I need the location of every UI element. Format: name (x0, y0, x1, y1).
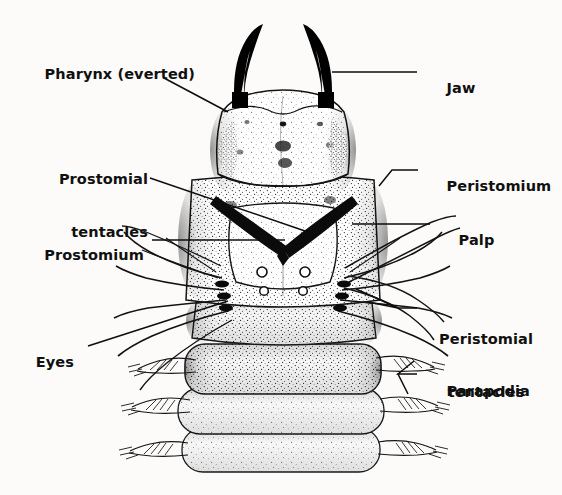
label-parapodia-line1: Parapodia (447, 383, 530, 399)
label-jaw-line1: Jaw (447, 80, 476, 96)
parapodium-right-3 (378, 441, 448, 458)
label-prostomium-line1: Prostomium (44, 247, 144, 263)
figure-canvas: Pharynx (everted) Prostomial tentacles P… (0, 0, 562, 495)
label-jaw: Jaw (426, 62, 475, 115)
label-pharynx-line1: Pharynx (everted) (45, 66, 195, 82)
label-eyes-line1: Eyes (36, 354, 74, 370)
leader-parapodia (398, 361, 417, 394)
label-peristomium: Peristomium (426, 160, 551, 213)
parapodium-left-3 (119, 442, 188, 459)
body-segments (178, 298, 384, 473)
pharynx-everted (210, 90, 356, 192)
segment-2 (184, 344, 382, 394)
label-peristomium-line1: Peristomium (447, 178, 552, 194)
leader-peristomium (379, 170, 418, 186)
label-parapodia: Parapodia (426, 365, 530, 418)
label-eyes: Eyes (10, 336, 74, 389)
segment-3 (178, 388, 384, 434)
label-palp-line1: Palp (459, 232, 495, 248)
label-prostomium: Prostomium (14, 229, 144, 282)
label-prostomial-tentacles-line1: Prostomial (24, 171, 148, 189)
label-peristomial-tentacles-line1: Peristomial (426, 331, 546, 349)
label-pharynx: Pharynx (everted) (24, 48, 184, 101)
label-palp: Palp (438, 214, 494, 267)
